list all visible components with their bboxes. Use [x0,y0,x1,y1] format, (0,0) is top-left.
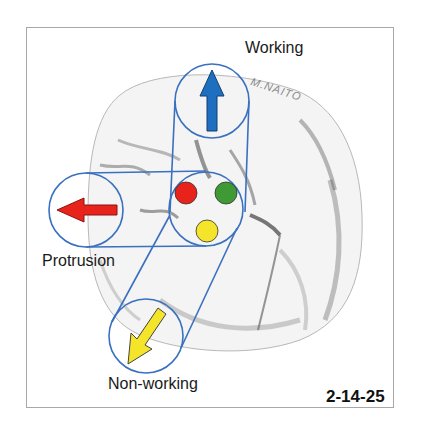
protrusion-label: Protrusion [42,253,115,269]
nonworking-label: Non-working [108,376,198,392]
working-label: Working [245,40,303,56]
figure-number: 2-14-25 [326,388,385,405]
green-contact-dot [215,182,237,204]
tooth-sketch [88,75,362,351]
occlusion-diagram [0,0,425,436]
yellow-contact-dot [196,220,218,242]
red-contact-dot [175,182,197,204]
